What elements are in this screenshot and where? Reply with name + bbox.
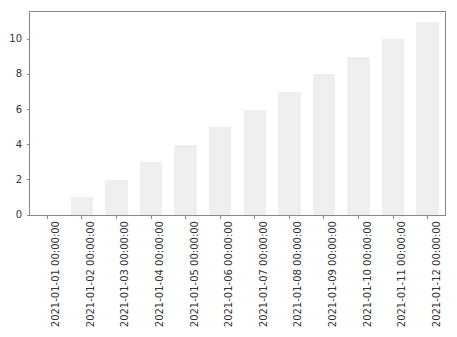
x-tick-label-text: 2021-01-12 00:00:00: [431, 221, 441, 327]
y-tick-mark: [27, 109, 31, 110]
x-tick-label-text: 2021-01-04 00:00:00: [155, 221, 165, 327]
x-tick-label: 2021-01-08 00:00:00: [289, 115, 299, 221]
y-tick-label: 6: [16, 103, 22, 117]
x-tick-label: 2021-01-03 00:00:00: [116, 115, 126, 221]
x-tick-label-text: 2021-01-08 00:00:00: [293, 221, 303, 327]
x-tick-label-text: 2021-01-10 00:00:00: [362, 221, 372, 327]
x-tick-label: 2021-01-06 00:00:00: [220, 115, 230, 221]
bar-chart-figure: 0246810 2021-01-01 00:00:002021-01-02 00…: [0, 0, 457, 337]
x-tick-label: 2021-01-10 00:00:00: [359, 115, 369, 221]
x-tick-label-text: 2021-01-05 00:00:00: [189, 221, 199, 327]
x-tick-label: 2021-01-02 00:00:00: [82, 115, 92, 221]
plot-axes: 0246810 2021-01-01 00:00:002021-01-02 00…: [29, 11, 446, 216]
y-tick-mark: [27, 215, 31, 216]
y-tick-label: 10: [9, 32, 22, 46]
y-tick-label: 4: [16, 138, 22, 152]
x-tick-label: 2021-01-12 00:00:00: [428, 115, 438, 221]
y-tick-mark: [27, 144, 31, 145]
x-tick-label-text: 2021-01-02 00:00:00: [85, 221, 95, 327]
y-tick-label: 0: [16, 208, 22, 222]
x-tick-label: 2021-01-09 00:00:00: [324, 115, 334, 221]
y-tick-label: 2: [16, 173, 22, 187]
x-tick-label-text: 2021-01-11 00:00:00: [397, 221, 407, 327]
x-tick-label: 2021-01-11 00:00:00: [393, 115, 403, 221]
x-tick-label: 2021-01-05 00:00:00: [186, 115, 196, 221]
y-tick-label: 8: [16, 67, 22, 81]
x-tick-label-text: 2021-01-06 00:00:00: [224, 221, 234, 327]
x-tick-label-text: 2021-01-07 00:00:00: [258, 221, 268, 327]
y-tick-mark: [27, 39, 31, 40]
y-tick-mark: [27, 179, 31, 180]
x-tick-label-text: 2021-01-01 00:00:00: [51, 221, 61, 327]
plot-canvas: [30, 12, 445, 215]
x-tick-label-text: 2021-01-09 00:00:00: [327, 221, 337, 327]
x-tick-label: 2021-01-01 00:00:00: [47, 115, 57, 221]
x-tick-label: 2021-01-04 00:00:00: [151, 115, 161, 221]
y-tick-mark: [27, 74, 31, 75]
x-tick-label: 2021-01-07 00:00:00: [255, 115, 265, 221]
x-tick-label-text: 2021-01-03 00:00:00: [120, 221, 130, 327]
